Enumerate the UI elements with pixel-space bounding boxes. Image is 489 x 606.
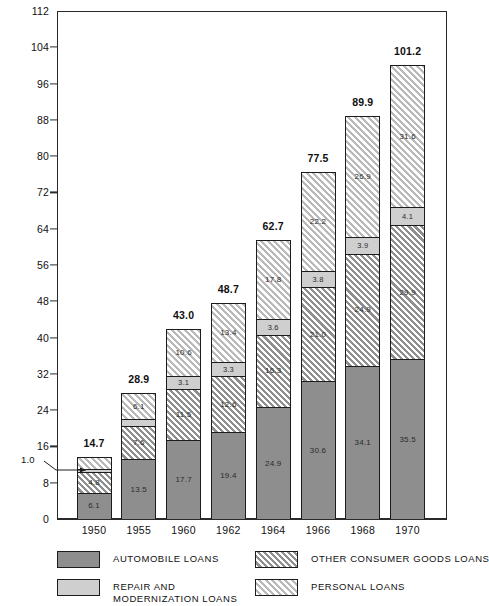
x-axis-tick-label: 1968: [351, 524, 376, 536]
y-axis-tick-label: 96: [37, 78, 49, 90]
bar-segment-automobile-1966: 30.6: [301, 381, 336, 520]
legend-label-line: OTHER CONSUMER GOODS LOANS: [311, 553, 489, 565]
bar-segment-other_consumer_goods-1966: 21.0: [301, 287, 336, 382]
bar-segment-value: 19.4: [220, 472, 236, 480]
y-axis-tick-label: 64: [37, 223, 49, 235]
bar-segment-automobile-1968: 34.1: [345, 366, 380, 521]
bar-total-label-1968: 89.9: [352, 96, 373, 108]
bar-segment-automobile-1950: 6.1: [77, 493, 112, 521]
bar-segment-value: 31.6: [399, 133, 415, 141]
x-axis-tick-label: 1966: [306, 524, 331, 536]
x-axis-tick-label: 1970: [395, 524, 420, 536]
bar-segment-value: 22.2: [310, 218, 326, 226]
bar-segment-other_consumer_goods-1962: 12.6: [211, 376, 246, 433]
bar-segment-automobile-1964: 24.9: [256, 407, 291, 520]
legend-swatch-solid-light-gray: [57, 579, 100, 596]
bar-segment-value: 24.9: [355, 306, 371, 314]
bar-segment-value: 3.1: [178, 379, 189, 387]
y-axis-tick-label: 88: [37, 114, 49, 126]
y-axis-tick-label: 0: [43, 513, 49, 525]
y-axis: 081624324048566472808896104112: [0, 0, 57, 519]
annotation-label: 1.0: [21, 454, 35, 465]
bar-segment-repair_modernization-1964: 3.6: [256, 319, 291, 335]
bar-segment-repair_modernization-1962: 3.3: [211, 362, 246, 377]
bar-segment-personal-1962: 13.4: [211, 303, 246, 364]
bar-1968: 26.93.924.934.1: [345, 116, 380, 519]
y-axis-tick-label: 32: [37, 368, 49, 380]
legend-label: REPAIR ANDMODERNIZATION LOANS: [113, 579, 237, 604]
bar-segment-value: 17.8: [265, 276, 281, 284]
bar-segment-value: 13.5: [131, 486, 147, 494]
bar-1964: 17.83.616.324.9: [256, 240, 291, 519]
bar-segment-other_consumer_goods-1970: 29.9: [390, 225, 425, 361]
bar-segment-value: 10.6: [175, 349, 191, 357]
bar-segment-value: 34.1: [355, 439, 371, 447]
bar-segment-automobile-1960: 17.7: [166, 440, 201, 520]
bar-segment-repair_modernization-1966: 3.8: [301, 271, 336, 288]
bar-1966: 22.23.821.030.6: [301, 172, 336, 519]
bar-segment-automobile-1970: 35.5: [390, 359, 425, 520]
bar-segment-value: 3.8: [312, 276, 323, 284]
legend-label: AUTOMOBILE LOANS: [113, 551, 219, 565]
bar-segment-value: 17.7: [175, 476, 191, 484]
bar-1960: 10.63.111.517.7: [166, 329, 201, 519]
bar-segment-value: 3.3: [223, 366, 234, 374]
bar-segment-value: 16.3: [265, 367, 281, 375]
bar-segment-repair_modernization-1970: 4.1: [390, 207, 425, 226]
bar-segment-value: 3.6: [268, 324, 279, 332]
y-axis-tick-label: 104: [31, 41, 49, 53]
legend-swatch-light-diagonal-hatch: [255, 579, 298, 596]
bar-total-label-1955: 28.9: [128, 373, 149, 385]
y-axis-tick-label: 80: [37, 150, 49, 162]
y-axis-tick-label: 16: [37, 440, 49, 452]
bar-1950: 2.81.04.86.1: [77, 457, 112, 519]
legend-swatch-dark-diagonal-hatch: [255, 551, 298, 568]
x-axis-tick-label: 1962: [216, 524, 241, 536]
legend-label-line: AUTOMOBILE LOANS: [113, 553, 219, 565]
bar-segment-value: 35.5: [399, 436, 415, 444]
bar-segment-value: 6.1: [133, 403, 145, 411]
y-axis-tick-label: 112: [32, 5, 49, 17]
bar-1970: 31.64.129.935.5: [390, 65, 425, 519]
bar-segment-other_consumer_goods-1960: 11.5: [166, 389, 201, 441]
y-axis-tick-label: 48: [37, 295, 49, 307]
bar-total-label-1962: 48.7: [218, 283, 239, 295]
bar-segment-value: 30.6: [310, 447, 326, 455]
legend-label: PERSONAL LOANS: [311, 579, 405, 593]
annotation-repair-1950: 1.0: [21, 454, 35, 465]
legend-label-line: REPAIR AND: [113, 581, 237, 593]
bar-segment-other_consumer_goods-1968: 24.9: [345, 254, 380, 367]
bar-segment-personal-1966: 22.2: [301, 172, 336, 273]
bar-segment-value: 6.1: [88, 502, 100, 510]
y-axis-tick-label: 40: [37, 332, 49, 344]
legend-label: OTHER CONSUMER GOODS LOANS: [311, 551, 489, 565]
bar-segment-value: 3.9: [357, 242, 368, 250]
bar-total-label-1970: 101.2: [394, 45, 421, 57]
legend-item-personal-loans: PERSONAL LOANS: [255, 579, 405, 596]
bar-segment-other_consumer_goods-1950: 4.8: [77, 472, 112, 494]
legend: AUTOMOBILE LOANSOTHER CONSUMER GOODS LOA…: [0, 549, 462, 606]
bars-layer: 2.81.04.86.16.11.77.613.510.63.111.517.7…: [57, 11, 447, 519]
bar-segment-personal-1968: 26.9: [345, 116, 380, 238]
x-axis-line: [57, 519, 447, 520]
bar-segment-value: 11.5: [176, 411, 192, 419]
bar-segment-value: 4.8: [88, 479, 100, 487]
bar-segment-personal-1955: 6.1: [121, 393, 156, 421]
bar-segment-personal-1960: 10.6: [166, 329, 201, 377]
legend-item-automobile-loans: AUTOMOBILE LOANS: [57, 551, 219, 568]
bar-segment-other_consumer_goods-1955: 7.6: [121, 426, 156, 460]
bar-segment-value: 4.1: [402, 213, 413, 221]
bar-segment-value: 24.9: [265, 460, 281, 468]
y-axis-tick-label: 24: [37, 404, 49, 416]
bar-segment-other_consumer_goods-1964: 16.3: [256, 335, 291, 409]
bar-segment-value: 13.4: [220, 329, 236, 337]
y-axis-tick-label: 8: [43, 477, 49, 489]
bar-1962: 13.43.312.619.4: [211, 303, 246, 519]
bar-total-label-1964: 62.7: [263, 220, 284, 232]
bar-segment-automobile-1962: 19.4: [211, 432, 246, 520]
legend-swatch-solid-medium-gray: [57, 551, 100, 568]
bar-total-label-1950: 14.7: [83, 437, 104, 449]
bar-segment-value: 12.6: [220, 401, 236, 409]
bar-total-label-1960: 43.0: [173, 309, 194, 321]
